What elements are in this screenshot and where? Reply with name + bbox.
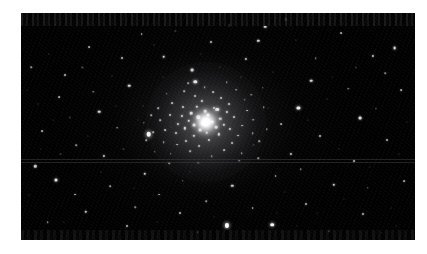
- star: [372, 55, 374, 57]
- star: [223, 149, 225, 151]
- star: [233, 116, 235, 118]
- scanline-artifact: [21, 162, 415, 163]
- star: [225, 223, 229, 227]
- star: [295, 40, 296, 41]
- star: [170, 153, 172, 155]
- star: [358, 117, 361, 120]
- star: [237, 135, 239, 137]
- star: [74, 194, 76, 196]
- star: [204, 86, 206, 88]
- star: [146, 132, 151, 137]
- star: [150, 114, 152, 116]
- star: [226, 82, 228, 84]
- star: [403, 180, 405, 182]
- star: [170, 126, 171, 127]
- star: [176, 144, 178, 146]
- star: [212, 91, 214, 93]
- star: [215, 126, 218, 129]
- star: [243, 230, 244, 231]
- star: [384, 73, 386, 75]
- star: [375, 108, 376, 109]
- star: [30, 67, 32, 69]
- star: [163, 141, 165, 143]
- star: [138, 119, 139, 120]
- star: [277, 212, 278, 213]
- star: [300, 168, 302, 170]
- star: [154, 45, 155, 46]
- star: [48, 53, 49, 54]
- star: [305, 203, 307, 205]
- star: [290, 153, 292, 155]
- star: [40, 149, 41, 150]
- star: [228, 103, 230, 105]
- star: [141, 33, 143, 35]
- star: [219, 118, 222, 121]
- star: [153, 132, 155, 134]
- bottom-noise-band: [21, 230, 415, 240]
- cluster-halo: [146, 62, 266, 182]
- star: [226, 111, 228, 113]
- star: [362, 213, 364, 215]
- star: [400, 89, 402, 91]
- star: [386, 139, 388, 141]
- star: [284, 192, 285, 193]
- star: [52, 119, 53, 120]
- star: [231, 185, 233, 187]
- star: [229, 128, 231, 130]
- star: [111, 75, 112, 76]
- star: [238, 160, 240, 162]
- star: [391, 208, 392, 209]
- star: [115, 106, 116, 107]
- star: [407, 121, 408, 122]
- star: [258, 141, 260, 143]
- star: [393, 47, 396, 50]
- star: [69, 117, 70, 118]
- star: [34, 165, 36, 167]
- star: [190, 112, 193, 115]
- star: [353, 160, 355, 162]
- star: [183, 90, 185, 92]
- star: [37, 103, 38, 104]
- star: [158, 194, 160, 196]
- star: [211, 156, 213, 158]
- star: [157, 107, 159, 109]
- star: [253, 144, 254, 145]
- scanline-artifact: [21, 159, 415, 160]
- star: [246, 110, 248, 112]
- star: [28, 194, 29, 195]
- star: [135, 207, 137, 209]
- star: [185, 140, 187, 142]
- top-noise-band: [21, 13, 415, 26]
- star: [399, 153, 400, 154]
- figure-root: [0, 0, 427, 254]
- star: [166, 93, 168, 95]
- star: [64, 221, 65, 222]
- star: [244, 58, 246, 60]
- star: [332, 76, 333, 77]
- star: [88, 46, 90, 48]
- star: [93, 91, 95, 93]
- star: [58, 96, 60, 98]
- star: [240, 76, 241, 77]
- star: [315, 58, 317, 60]
- star: [319, 135, 321, 137]
- star: [344, 199, 345, 200]
- star: [128, 84, 131, 87]
- star: [154, 151, 156, 153]
- star: [194, 95, 196, 97]
- star: [193, 80, 196, 83]
- star: [179, 212, 181, 214]
- star: [285, 18, 287, 20]
- sky-photograph-plate: [21, 13, 415, 240]
- star: [347, 88, 349, 90]
- star: [333, 183, 335, 185]
- star: [210, 41, 212, 43]
- star: [162, 55, 165, 58]
- star: [164, 129, 166, 131]
- star: [160, 119, 162, 121]
- figure-caption: [21, 242, 415, 253]
- star: [263, 107, 265, 109]
- star: [177, 123, 179, 125]
- star: [182, 180, 184, 182]
- star: [213, 107, 215, 109]
